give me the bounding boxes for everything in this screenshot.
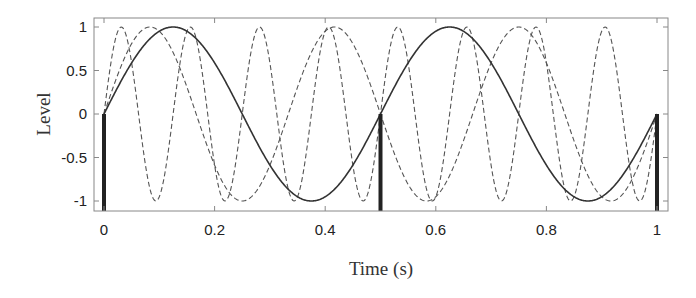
x-axis-tick-labels: 00.20.40.60.81 [100, 221, 661, 238]
y-tick-label: 1 [79, 18, 87, 35]
x-tick-label: 0.4 [315, 221, 336, 238]
x-axis-label: Time (s) [349, 258, 413, 280]
chart: 00.20.40.60.81 10.50-0.5-1 Time (s) Leve… [0, 0, 696, 298]
y-tick-label: 0 [79, 105, 87, 122]
x-tick-label: 0.2 [204, 221, 225, 238]
x-tick-label: 0 [100, 221, 108, 238]
x-tick-label: 0.6 [425, 221, 446, 238]
y-axis-tick-labels: 10.50-0.5-1 [61, 18, 87, 209]
y-tick-label: 0.5 [66, 62, 87, 79]
y-tick-label: -1 [74, 192, 87, 209]
y-axis-label: Level [33, 92, 54, 135]
x-tick-label: 1 [653, 221, 661, 238]
y-tick-label: -0.5 [61, 149, 87, 166]
x-tick-label: 0.8 [536, 221, 557, 238]
plot-area [104, 27, 657, 211]
